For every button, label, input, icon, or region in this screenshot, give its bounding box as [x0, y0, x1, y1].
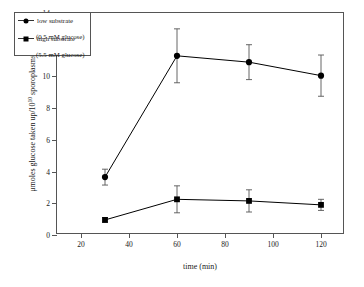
figure: 0246810121420406080100120 μmoles glucose… — [0, 0, 364, 287]
series-line — [105, 56, 321, 177]
x-axis-tick — [177, 233, 178, 238]
x-axis-tick — [273, 233, 274, 238]
x-axis-tick — [225, 233, 226, 238]
legend-sublabel-low-substrate-row: (0.5 mM glucose) — [18, 25, 85, 34]
y-axis-tick — [52, 235, 57, 236]
data-point-circle — [318, 73, 324, 79]
legend-item-low-substrate: low substrate — [18, 16, 85, 25]
series-high-substrate — [102, 186, 324, 223]
x-axis-tick — [81, 233, 82, 238]
x-axis-tick — [129, 233, 130, 238]
data-point-square — [102, 217, 108, 223]
legend-label-low-substrate: low substrate — [37, 16, 73, 25]
y-axis-tick-label: 6 — [46, 135, 50, 144]
x-axis-tick-label: 60 — [173, 240, 181, 249]
legend-sublabel-high-substrate: (5.5 mM glucose) — [36, 51, 85, 58]
data-point-circle — [246, 59, 252, 65]
y-axis-tick — [52, 140, 57, 141]
x-axis-tick-label: 100 — [267, 240, 278, 249]
legend-marker-circle-icon — [18, 16, 34, 25]
y-axis-tick-label: 4 — [46, 167, 50, 176]
data-point-square — [246, 198, 252, 204]
legend-label-high-substrate: high substrate — [37, 34, 75, 43]
y-axis-label-exponent: 10 — [27, 97, 33, 103]
y-axis-tick-label: 0 — [46, 231, 50, 240]
data-point-square — [174, 196, 180, 202]
chart-canvas — [57, 13, 345, 235]
legend: low substrate (0.5 mM glucose) high subs… — [14, 12, 91, 56]
y-axis-tick — [52, 108, 57, 109]
x-axis-tick-label: 20 — [77, 240, 85, 249]
y-axis-tick — [52, 76, 57, 77]
data-point-circle — [174, 53, 180, 59]
y-axis-tick — [52, 172, 57, 173]
legend-sublabel-high-substrate-row: (5.5 mM glucose) — [18, 43, 85, 52]
y-axis-tick-label: 8 — [46, 104, 50, 113]
data-point-square — [318, 202, 324, 208]
x-axis-tick-label: 120 — [315, 240, 326, 249]
x-axis-tick — [321, 233, 322, 238]
x-axis-label: time (min) — [56, 262, 344, 271]
y-axis-tick-label: 2 — [46, 199, 50, 208]
data-point-circle — [102, 174, 108, 180]
series-line — [105, 199, 321, 220]
y-axis-tick-label: 10 — [43, 72, 51, 81]
series-low-substrate — [102, 29, 324, 185]
legend-item-high-substrate: high substrate — [18, 34, 85, 43]
y-axis-label-text: μmoles glucose taken up/10 — [28, 102, 37, 191]
x-axis-tick-label: 80 — [221, 240, 229, 249]
legend-marker-square-icon — [18, 34, 34, 43]
plot-area: 0246810121420406080100120 — [56, 12, 344, 234]
y-axis-label-suffix: sporoplasms — [28, 55, 37, 97]
x-axis-tick-label: 40 — [125, 240, 133, 249]
y-axis-tick — [52, 203, 57, 204]
